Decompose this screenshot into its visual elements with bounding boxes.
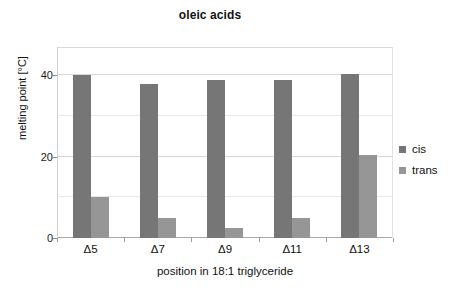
legend-swatch-icon — [399, 167, 406, 174]
chart-legend: cistrans — [399, 143, 454, 185]
x-tick-mark — [57, 238, 58, 242]
bar-trans-Δ11[interactable] — [292, 218, 310, 238]
y-tick-label: 0 — [19, 232, 53, 244]
plot-area — [57, 47, 393, 238]
y-tick-label: 20 — [19, 151, 53, 163]
bar-trans-Δ9[interactable] — [225, 228, 243, 238]
y-axis-ticks: 02040 — [12, 47, 53, 238]
x-tick-mark — [326, 238, 327, 242]
bar-cis-Δ11[interactable] — [274, 80, 292, 238]
legend-swatch-icon — [399, 146, 406, 153]
legend-item-trans[interactable]: trans — [399, 164, 454, 176]
x-tick-label: Δ5 — [84, 243, 98, 255]
x-tick-label: Δ13 — [349, 243, 369, 255]
legend-label: cis — [412, 143, 426, 155]
y-tick-label: 40 — [19, 69, 53, 81]
bar-group — [274, 48, 310, 238]
bar-trans-Δ7[interactable] — [158, 218, 176, 238]
bar-trans-Δ5[interactable] — [91, 197, 109, 238]
x-tick-label: Δ7 — [151, 243, 165, 255]
legend-label: trans — [412, 164, 438, 176]
bar-cis-Δ9[interactable] — [207, 80, 225, 238]
x-tick-label: Δ11 — [282, 243, 302, 255]
legend-item-cis[interactable]: cis — [399, 143, 454, 155]
x-tick-label: Δ9 — [218, 243, 232, 255]
bar-cis-Δ13[interactable] — [341, 74, 359, 238]
bar-group — [207, 48, 243, 238]
bar-group — [341, 48, 377, 238]
x-axis-ticks: Δ5Δ7Δ9Δ11Δ13 — [57, 238, 393, 260]
bar-group — [73, 48, 109, 238]
chart-figure: oleic acids melting point [°C] 02040 Δ5Δ… — [0, 0, 454, 300]
x-axis-title: position in 18:1 triglyceride — [57, 265, 393, 277]
bar-trans-Δ13[interactable] — [359, 155, 377, 238]
x-tick-mark — [124, 238, 125, 242]
x-tick-mark — [191, 238, 192, 242]
x-tick-mark — [393, 238, 394, 242]
chart-title: oleic acids — [0, 8, 420, 22]
bar-group — [140, 48, 176, 238]
bar-cis-Δ7[interactable] — [140, 84, 158, 238]
bar-cis-Δ5[interactable] — [73, 75, 91, 238]
x-tick-mark — [259, 238, 260, 242]
